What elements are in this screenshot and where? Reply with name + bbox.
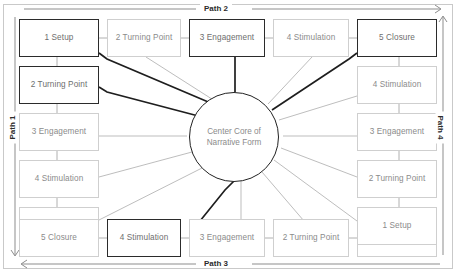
path4-label: Path 4 [436,111,445,143]
node-bottom-3[interactable]: 3 Engagement [189,219,265,257]
center-core-line1: Center Core of [207,126,262,137]
center-core-text: Center Core of Narrative Form [207,126,262,148]
center-core[interactable]: Center Core of Narrative Form [189,92,279,182]
node-top-2[interactable]: 2 Turning Point [107,19,181,57]
node-right-2[interactable]: 3 Engagement [357,113,437,151]
node-label: 3 Engagement [32,127,86,136]
node-right-3[interactable]: 2 Turning Point [357,160,437,198]
path1-label: Path 1 [8,111,17,143]
node-label: 2 Turning Point [116,33,173,42]
node-label: 5 Closure [41,233,77,242]
node-right-4[interactable]: 1 Setup [357,207,437,245]
node-label: 2 Turning Point [31,80,88,89]
center-core-line2: Narrative Form [207,137,262,148]
node-label: 3 Engagement [200,233,254,242]
node-label: 4 Stimulation [35,174,84,183]
node-label: 2 Turning Point [369,174,426,183]
node-label: 4 Stimulation [287,33,336,42]
node-label: 1 Setup [383,221,412,230]
node-top-1[interactable]: 1 Setup [19,19,99,57]
path2-label: Path 2 [200,4,232,13]
diagram-canvas: 1 Setup 2 Turning Point 3 Engagement 4 S… [0,0,457,273]
node-left-1[interactable]: 2 Turning Point [19,66,99,104]
node-right-1[interactable]: 4 Stimulation [357,66,437,104]
path2-arrow [24,5,441,13]
node-label: 4 Stimulation [373,80,422,89]
node-label: 3 Engagement [200,33,254,42]
node-bottom-1[interactable]: 5 Closure [19,219,99,257]
node-top-5[interactable]: 5 Closure [357,19,437,57]
node-label: 4 Stimulation [120,233,169,242]
node-left-3[interactable]: 4 Stimulation [19,160,99,198]
node-top-4[interactable]: 4 Stimulation [273,19,349,57]
path3-label: Path 3 [200,259,232,268]
node-bottom-4[interactable]: 2 Turning Point [273,219,349,257]
node-label: 1 Setup [45,33,74,42]
node-top-3[interactable]: 3 Engagement [189,19,265,57]
node-label: 2 Turning Point [283,233,340,242]
node-label: 5 Closure [379,33,415,42]
node-bottom-2[interactable]: 4 Stimulation [107,219,181,257]
node-label: 3 Engagement [370,127,424,136]
node-left-2[interactable]: 3 Engagement [19,113,99,151]
